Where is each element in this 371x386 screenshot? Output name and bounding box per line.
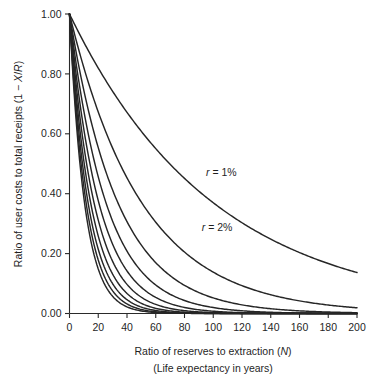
x-tick-label: 60 [150,321,162,333]
y-tick-label: 0.80 [41,68,62,80]
x-tick-label: 80 [179,321,191,333]
x-tick-label: 120 [233,321,251,333]
x-tick-label: 40 [121,321,133,333]
chart-figure: 0.000.200.400.600.801.00 020406080100120… [0,0,371,386]
y-tick-label: 0.40 [41,187,62,199]
x-tick-label: 200 [348,321,366,333]
user-cost-ratio-line-chart: 0.000.200.400.600.801.00 020406080100120… [0,0,371,386]
y-tick-label: 0.20 [41,247,62,259]
x-tick-label: 160 [291,321,309,333]
x-tick-label: 20 [92,321,104,333]
x-axis-subtitle: (Life expectancy in years) [153,362,273,374]
x-axis-title: Ratio of reserves to extraction (N) [135,345,292,357]
x-tick-label: 180 [319,321,337,333]
curve-label-1pct: r = 1% [206,166,237,178]
x-tick-label: 100 [204,321,222,333]
y-tick-label: 0.00 [41,307,62,319]
x-tick-label: 0 [67,321,73,333]
y-axis-title: Ratio of user costs to total receipts (1… [12,61,24,267]
y-tick-label: 0.60 [41,127,62,139]
y-tick-label: 1.00 [41,8,62,20]
x-tick-label: 140 [262,321,280,333]
curve-label-2pct: r = 2% [202,221,233,233]
